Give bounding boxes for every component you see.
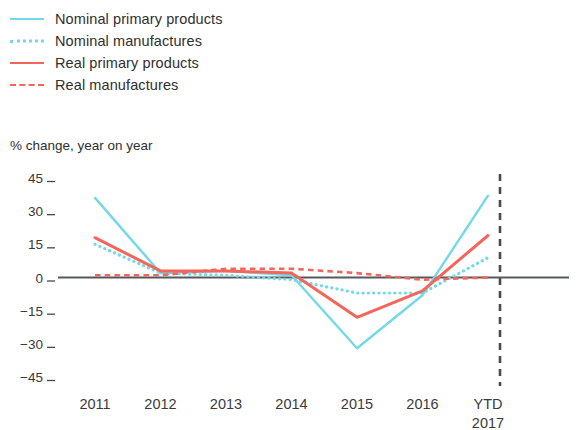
- x-axis-ticks: 201120122013201420152016YTD2017: [79, 396, 504, 430]
- y-axis-tick-label: 30: [28, 204, 43, 219]
- y-axis-ticks: 4530150−15−30−45: [20, 171, 55, 385]
- y-axis-tick-label: −15: [20, 304, 43, 319]
- y-axis-tick-label: 15: [28, 237, 43, 252]
- y-axis-tick-label: −30: [20, 337, 43, 352]
- x-axis-tick-label: 2015: [341, 396, 373, 412]
- line-chart: 4530150−15−30−45 20112012201320142015201…: [0, 0, 579, 430]
- y-axis-tick-label: 45: [28, 171, 43, 186]
- x-axis-tick-label: 2016: [406, 396, 438, 412]
- chart-series: [95, 196, 488, 349]
- x-axis-tick-label: 2011: [79, 396, 110, 412]
- x-axis-tick-label: YTD2017: [472, 396, 504, 430]
- y-axis-tick-label: 0: [35, 271, 43, 286]
- y-axis-tick-label: −45: [20, 370, 43, 385]
- x-axis-tick-label: 2013: [210, 396, 242, 412]
- x-axis-tick-label: 2014: [275, 396, 307, 412]
- x-axis-tick-label: 2012: [144, 396, 176, 412]
